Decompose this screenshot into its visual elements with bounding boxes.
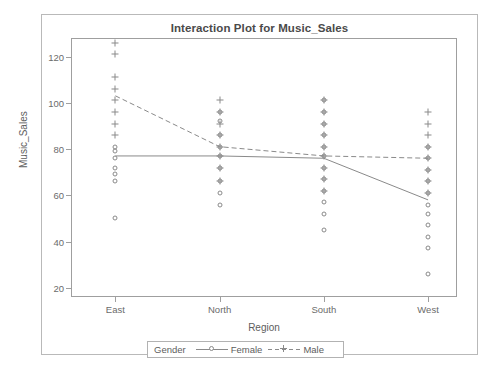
legend-entry-male[interactable]: Male <box>268 344 324 355</box>
data-point-male <box>216 152 223 159</box>
data-point-male <box>216 143 223 150</box>
legend-entry-female[interactable]: Female <box>196 344 263 355</box>
data-point-male <box>320 152 327 159</box>
legend-label-male: Male <box>303 344 324 355</box>
y-axis-tick-mark <box>66 288 71 289</box>
data-point-male <box>320 164 327 171</box>
data-point-male <box>320 132 327 139</box>
data-point-male <box>320 120 327 127</box>
data-point-male <box>425 143 432 150</box>
data-point-male <box>425 155 432 162</box>
data-point-female <box>426 234 431 239</box>
data-point-male <box>112 97 119 104</box>
data-point-female <box>113 165 118 170</box>
data-point-male <box>216 164 223 171</box>
data-point-male <box>425 189 432 196</box>
data-point-male <box>112 109 119 116</box>
legend-title: Gender <box>154 344 186 355</box>
x-axis-tick-mark <box>428 297 429 302</box>
x-axis-label: Region <box>71 322 457 333</box>
data-point-male <box>425 109 432 116</box>
data-point-male <box>216 97 223 104</box>
x-axis-tick-label: West <box>417 304 438 315</box>
data-point-female <box>217 190 222 195</box>
data-point-male <box>112 51 119 58</box>
y-axis-label: Music_Sales <box>18 111 29 168</box>
data-point-female <box>321 211 326 216</box>
legend: Gender Female Male <box>147 341 344 358</box>
data-point-male <box>216 132 223 139</box>
x-axis-tick-label: North <box>208 304 231 315</box>
screenshot-root: Interaction Plot for Music_Sales Music_S… <box>0 0 492 379</box>
y-axis-tick-mark <box>66 242 71 243</box>
y-axis-tick-mark <box>66 195 71 196</box>
data-point-male <box>425 120 432 127</box>
data-point-female <box>113 179 118 184</box>
y-axis-tick-mark <box>66 57 71 58</box>
data-point-male <box>425 178 432 185</box>
data-point-female <box>426 202 431 207</box>
y-axis-tick-mark <box>66 149 71 150</box>
y-axis-tick-mark <box>66 103 71 104</box>
plot-area: 20406080100120EastNorthSouthWest <box>71 38 457 297</box>
data-point-female <box>426 246 431 251</box>
data-point-male <box>320 187 327 194</box>
x-axis-tick-label: South <box>311 304 336 315</box>
top-cropped-text <box>0 0 492 5</box>
data-point-male <box>425 166 432 173</box>
x-axis-tick-mark <box>220 297 221 302</box>
data-point-male <box>112 132 119 139</box>
legend-swatch-female <box>196 345 228 354</box>
mean-line-female <box>115 156 428 200</box>
data-point-male <box>216 178 223 185</box>
data-point-male <box>425 132 432 139</box>
data-point-male <box>216 109 223 116</box>
data-point-female <box>113 216 118 221</box>
data-point-male <box>112 39 119 46</box>
data-point-female <box>113 149 118 154</box>
data-point-male <box>320 109 327 116</box>
x-axis-tick-label: East <box>106 304 125 315</box>
data-point-male <box>320 97 327 104</box>
data-point-male <box>112 85 119 92</box>
chart-title: Interaction Plot for Music_Sales <box>41 22 478 34</box>
data-point-male <box>320 143 327 150</box>
legend-swatch-male <box>268 345 300 354</box>
data-point-female <box>321 227 326 232</box>
data-point-female <box>426 211 431 216</box>
data-point-female <box>113 172 118 177</box>
legend-label-female: Female <box>231 344 263 355</box>
data-point-female <box>321 200 326 205</box>
data-point-male <box>112 74 119 81</box>
data-point-female <box>217 202 222 207</box>
data-point-male <box>320 176 327 183</box>
x-axis-tick-mark <box>324 297 325 302</box>
mean-line-male <box>115 96 428 158</box>
data-point-female <box>113 156 118 161</box>
data-point-female <box>426 223 431 228</box>
x-axis-tick-mark <box>115 297 116 302</box>
data-point-male <box>216 120 223 127</box>
data-point-male <box>112 120 119 127</box>
data-point-female <box>426 271 431 276</box>
series-lines <box>71 38 457 297</box>
